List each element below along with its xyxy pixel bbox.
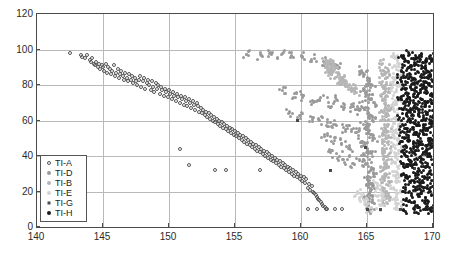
data-point-ti-h [422, 169, 425, 172]
data-point-ti-h [413, 181, 416, 184]
data-point-ti-h [400, 155, 403, 158]
data-point-ti-d [341, 150, 344, 153]
legend-item-ti-g[interactable]: TI-G [44, 198, 83, 208]
y-axis-tick-mark [36, 84, 40, 85]
y-axis-tick-label: 0 [3, 221, 33, 232]
data-point-ti-b [383, 118, 386, 121]
data-point-ti-d [248, 49, 251, 52]
data-point-ti-d [361, 141, 364, 144]
scatter-chart-figure: Overhead lights composition 020406080100… [0, 0, 449, 257]
data-point-ti-b [382, 58, 385, 61]
data-point-ti-a [306, 207, 310, 211]
data-point-ti-h [417, 64, 420, 67]
y-axis-tick-mark [36, 155, 40, 156]
legend-label: TI-H [55, 208, 73, 218]
data-point-ti-d [303, 58, 306, 61]
x-axis-tick-label: 155 [214, 231, 254, 242]
data-point-ti-e [381, 197, 384, 200]
data-point-ti-h [424, 118, 427, 121]
data-point-ti-h [430, 85, 433, 88]
data-point-ti-d [367, 171, 370, 174]
data-point-ti-d [336, 157, 339, 160]
x-axis-tick-mark [234, 223, 235, 228]
data-point-ti-b [334, 66, 337, 69]
data-point-ti-e [391, 86, 394, 89]
data-point-ti-h [401, 140, 404, 143]
data-point-ti-h [405, 204, 408, 207]
data-point-ti-h [408, 139, 411, 142]
data-point-ti-h [410, 88, 413, 91]
data-point-ti-h [431, 145, 434, 148]
data-point-ti-b [334, 76, 337, 79]
data-point-ti-d [288, 51, 291, 54]
data-point-ti-h [413, 201, 416, 204]
data-point-ti-h [406, 67, 409, 70]
data-point-ti-a [213, 168, 217, 172]
data-point-ti-h [404, 183, 407, 186]
data-point-ti-e [376, 195, 379, 198]
y-axis-tick-label: 20 [3, 185, 33, 196]
data-point-ti-d [342, 108, 345, 111]
data-point-ti-h [414, 131, 417, 134]
legend-item-ti-e[interactable]: TI-E [44, 188, 83, 198]
data-point-ti-h [401, 112, 404, 115]
data-point-ti-d [256, 58, 259, 61]
data-point-ti-a [68, 51, 72, 55]
data-point-ti-b [387, 180, 390, 183]
data-point-ti-e [390, 141, 393, 144]
data-point-ti-d [335, 124, 338, 127]
data-point-ti-d [376, 140, 379, 143]
data-point-ti-d [326, 132, 329, 135]
y-axis-tick-mark [36, 191, 40, 192]
data-point-ti-h [402, 102, 405, 105]
data-point-ti-d [374, 105, 377, 108]
x-axis-tick-mark [102, 223, 103, 228]
data-point-ti-b [387, 114, 390, 117]
legend-item-ti-d[interactable]: TI-D [44, 168, 83, 178]
data-point-ti-d [281, 52, 284, 55]
data-point-ti-e [394, 156, 397, 159]
x-axis-tick-label: 160 [280, 231, 320, 242]
chart-legend: TI-ATI-DTI-BTI-ETI-GTI-H [40, 155, 87, 222]
legend-item-ti-b[interactable]: TI-B [44, 178, 83, 188]
data-point-ti-b [381, 181, 384, 184]
y-axis-tick-label: 120 [3, 8, 33, 19]
data-point-ti-d [336, 99, 339, 102]
data-point-ti-b [386, 67, 389, 70]
data-point-ti-d [344, 140, 347, 143]
data-point-ti-h [404, 191, 407, 194]
data-point-ti-h [405, 145, 408, 148]
data-point-ti-d [242, 56, 245, 59]
data-point-ti-h [432, 138, 434, 141]
data-point-ti-e [394, 65, 397, 68]
data-point-ti-h [430, 59, 433, 62]
legend-marker-icon [44, 168, 54, 178]
data-point-ti-h [423, 66, 426, 69]
data-point-ti-h [433, 102, 434, 105]
data-point-ti-h [417, 144, 420, 147]
data-point-ti-d [260, 54, 263, 57]
data-point-ti-h [432, 52, 434, 55]
legend-item-ti-a[interactable]: TI-A [44, 158, 83, 168]
data-point-ti-h [407, 60, 410, 63]
y-axis-tick-label: 80 [3, 79, 33, 90]
data-point-ti-a [325, 207, 329, 211]
data-point-ti-e [362, 198, 365, 201]
data-point-ti-b [353, 90, 356, 93]
data-point-ti-e [359, 188, 362, 191]
data-point-ti-a [152, 90, 156, 94]
data-point-ti-h [431, 185, 434, 188]
y-axis-tick-label: 100 [3, 43, 33, 54]
x-axis-tick-mark [300, 223, 301, 228]
data-point-ti-e [396, 198, 399, 201]
data-point-ti-d [346, 127, 349, 130]
data-point-ti-a [333, 207, 337, 211]
data-point-ti-h [430, 193, 433, 196]
data-point-ti-h [431, 109, 434, 112]
data-point-ti-d [339, 62, 342, 65]
legend-item-ti-h[interactable]: TI-H [44, 208, 83, 218]
data-point-ti-d [332, 142, 335, 145]
data-point-ti-b [339, 83, 342, 86]
data-point-ti-d [341, 131, 344, 134]
y-axis-tick-mark [36, 49, 40, 50]
